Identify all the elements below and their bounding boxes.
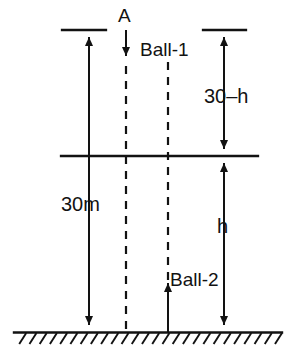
hatch-mark: [122, 333, 129, 344]
hatch-mark: [183, 333, 190, 344]
label-upper-segment: 30–h: [204, 86, 249, 106]
hatch-mark: [101, 333, 108, 344]
label-point-a: A: [118, 6, 131, 25]
hatch-mark: [152, 333, 159, 344]
hatch-mark: [234, 333, 241, 344]
label-ball-2: Ball-2: [170, 270, 219, 289]
hatch-mark: [142, 333, 149, 344]
label-lower-segment: h: [217, 216, 228, 236]
ground-hatch-marks: [19, 333, 282, 344]
hatch-mark: [244, 333, 251, 344]
hatch-mark: [214, 333, 221, 344]
hatch-mark: [275, 333, 282, 344]
hatch-mark: [81, 333, 88, 344]
hatch-mark: [162, 333, 169, 344]
hatch-mark: [70, 333, 77, 344]
hatch-mark: [40, 333, 47, 344]
hatch-mark: [111, 333, 118, 344]
hatch-mark: [224, 333, 231, 344]
hatch-mark: [29, 333, 36, 344]
hatch-mark: [50, 333, 57, 344]
hatch-mark: [19, 333, 26, 344]
hatch-mark: [255, 333, 262, 344]
hatch-mark: [203, 333, 210, 344]
hatch-mark: [91, 333, 98, 344]
physics-diagram: A Ball-1 Ball-2 30m 30–h h: [0, 0, 295, 350]
hatch-mark: [173, 333, 180, 344]
label-ball-1: Ball-1: [140, 40, 189, 59]
hatch-mark: [132, 333, 139, 344]
hatch-mark: [193, 333, 200, 344]
label-total-height: 30m: [61, 194, 100, 214]
hatch-mark: [265, 333, 272, 344]
hatch-mark: [60, 333, 67, 344]
